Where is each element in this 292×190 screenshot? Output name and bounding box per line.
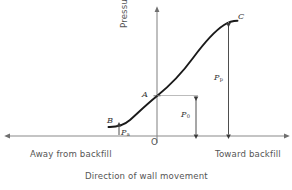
- at-rest-pressure-subscript: 0: [187, 113, 190, 119]
- at-rest-pressure-label: P0: [181, 110, 190, 120]
- passive-pressure-symbol: P: [214, 72, 220, 82]
- passive-pressure-subscript: p: [220, 76, 223, 82]
- active-pressure-subscript: a: [127, 131, 130, 137]
- point-label-a: A: [142, 90, 148, 98]
- at-rest-pressure-symbol: P: [181, 109, 187, 119]
- point-label-c: C: [238, 12, 244, 20]
- earth-pressure-diagram: Pressure on wall Away from backfill Towa…: [0, 0, 292, 190]
- origin-label: O: [151, 138, 158, 147]
- point-label-b: B: [107, 116, 113, 124]
- passive-pressure-label: Pp: [214, 73, 223, 83]
- active-pressure-label: Pa: [121, 128, 130, 138]
- x-axis-label: Direction of wall movement: [85, 172, 208, 181]
- x-axis-left-label: Away from backfill: [30, 150, 112, 159]
- x-axis-right-label: Toward backfill: [215, 150, 281, 159]
- y-axis-label: Pressure on wall: [119, 0, 133, 28]
- active-pressure-symbol: P: [121, 127, 127, 137]
